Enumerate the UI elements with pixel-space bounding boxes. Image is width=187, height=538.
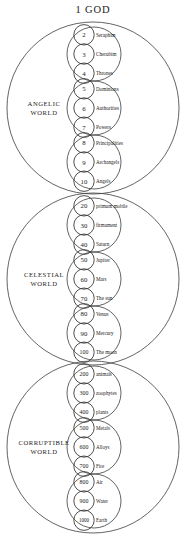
rank-number: 6	[82, 105, 86, 112]
rank-label: Saturn	[96, 241, 110, 247]
rank-label: Fire	[96, 463, 105, 469]
rank-label: Alloys	[96, 444, 110, 450]
rank-label: Archangels	[96, 159, 119, 165]
rank-label: Dominions	[96, 86, 119, 92]
rank-number: 100	[80, 349, 89, 355]
rank-label: Venus	[96, 311, 108, 317]
rank-number: 200	[80, 371, 89, 377]
rank-number: 30	[81, 222, 88, 229]
world-outer-circle	[7, 22, 179, 194]
world-group: CELESTIALWORLD20primum mobile30firmament…	[7, 193, 179, 365]
rank-label: Water	[96, 498, 108, 504]
rank-group: 200animals300zoophytes400plants	[67, 364, 121, 423]
cosmology-diagram: 1 GOD ANGELICWORLD2Seraphim3Cherubim4Thr…	[0, 0, 187, 538]
rank-number: 1000	[79, 517, 90, 523]
rank-number: 800	[80, 479, 89, 485]
rank-group: 80Venus90Mercury100The moon	[67, 304, 121, 363]
rank-number: 300	[80, 390, 89, 396]
rank-number: 4	[82, 70, 86, 77]
rank-label: Powers	[96, 124, 111, 130]
world-label-line1: CELESTIAL	[24, 271, 64, 278]
world-group: CORRUPTIBLEWORLD200animals300zoophytes40…	[7, 361, 179, 533]
diagram-title: 1 GOD	[75, 4, 110, 15]
rank-group: 2Seraphim3Cherubim4Thrones	[67, 25, 121, 84]
rank-group: 50Jupiter60Mars70The sun	[67, 250, 121, 309]
world-label-line1: CORRUPTIBLE	[18, 439, 69, 446]
rank-group: 20primum mobile30firmament40Saturn	[67, 196, 128, 255]
rank-label: Air	[96, 479, 103, 485]
rank-number: 900	[80, 498, 89, 504]
world-group: ANGELICWORLD2Seraphim3Cherubim4Thrones5D…	[7, 22, 179, 194]
rank-label: Thrones	[96, 70, 113, 76]
rank-number: 10	[81, 178, 88, 185]
world-outer-circle	[7, 361, 179, 533]
rank-number: 90	[81, 330, 88, 337]
rank-label: Earth	[96, 517, 107, 523]
rank-number: 600	[80, 444, 89, 450]
rank-group: 500Metals600Alloys700Fire	[67, 418, 121, 477]
rank-label: primum mobile	[96, 203, 128, 209]
rank-label: Principalities	[96, 140, 123, 146]
rank-label: Seraphim	[96, 32, 116, 38]
world-label-line1: ANGELIC	[28, 100, 61, 107]
rank-label: The moon	[96, 349, 117, 355]
rank-number: 700	[80, 463, 89, 469]
rank-number: 70	[81, 295, 88, 302]
rank-number: 3	[82, 51, 86, 58]
rank-label: Authorities	[96, 105, 119, 111]
rank-number: 50	[81, 256, 88, 263]
rank-number: 9	[82, 159, 86, 166]
cosmos-svg: 1 GOD ANGELICWORLD2Seraphim3Cherubim4Thr…	[0, 0, 187, 538]
rank-number: 80	[81, 310, 88, 317]
rank-label: Mars	[96, 276, 106, 282]
rank-group: 5Dominions6Authorities7Powers	[67, 79, 121, 138]
rank-number: 400	[80, 409, 89, 415]
rank-number: 2	[82, 31, 86, 38]
rank-number: 7	[82, 124, 86, 131]
world-label-line2: WORLD	[31, 109, 58, 116]
rank-number: 20	[81, 202, 88, 209]
rank-number: 5	[82, 85, 86, 92]
rank-label: Metals	[96, 425, 110, 431]
world-outer-circle	[7, 193, 179, 365]
worlds-layer: ANGELICWORLD2Seraphim3Cherubim4Thrones5D…	[7, 22, 179, 533]
rank-label: plants	[96, 409, 108, 415]
rank-label: Mercury	[96, 330, 114, 336]
rank-number: 500	[80, 425, 89, 431]
rank-group: 800Air900Water1000Earth	[67, 472, 121, 531]
rank-label: The sun	[96, 295, 113, 301]
rank-label: animals	[96, 371, 112, 377]
rank-label: zoophytes	[96, 390, 117, 396]
world-label-line2: WORLD	[31, 280, 58, 287]
rank-number: 8	[82, 139, 86, 146]
rank-number: 60	[81, 276, 88, 283]
rank-label: Jupiter	[96, 257, 110, 263]
world-label-line2: WORLD	[31, 448, 58, 455]
rank-label: firmament	[96, 222, 118, 228]
rank-group: 8Principalities9Archangels10Angels	[67, 133, 123, 192]
rank-label: Angels	[96, 178, 110, 184]
rank-label: Cherubim	[96, 51, 116, 57]
rank-number: 40	[81, 241, 88, 248]
